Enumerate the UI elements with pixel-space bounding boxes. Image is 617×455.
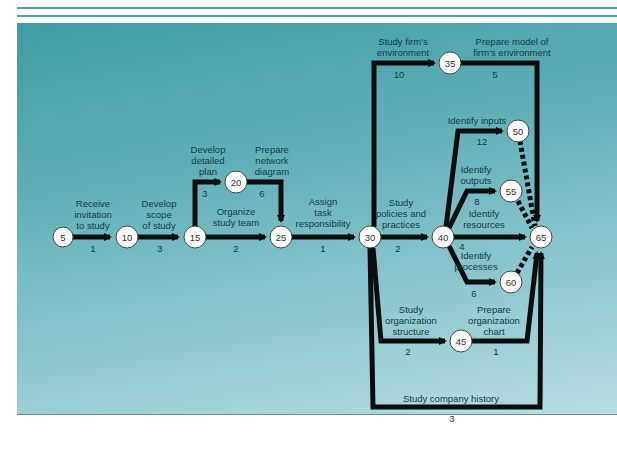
duration-30-40: 2 bbox=[395, 243, 400, 254]
svg-text:50: 50 bbox=[513, 126, 524, 137]
svg-text:10: 10 bbox=[122, 232, 133, 243]
node-25: 25 bbox=[270, 226, 292, 248]
duration-25-30: 1 bbox=[320, 243, 325, 254]
duration-30-65: 3 bbox=[449, 413, 454, 424]
pert-network-diagram: 5 10 15 20 25 30 35 40 45 50 55 60 65 Re… bbox=[0, 0, 617, 455]
node-65: 65 bbox=[530, 226, 552, 248]
node-20: 20 bbox=[225, 171, 247, 193]
dummy-edge-50-65 bbox=[520, 141, 535, 226]
node-30: 30 bbox=[359, 226, 381, 248]
svg-text:65: 65 bbox=[536, 232, 547, 243]
svg-text:60: 60 bbox=[506, 277, 517, 288]
duration-20-25: 6 bbox=[259, 188, 264, 199]
label-30-45: Studyorganizationstructure bbox=[385, 304, 437, 337]
duration-45-65: 1 bbox=[493, 346, 498, 357]
label-30-65: Study company history bbox=[403, 393, 499, 404]
node-60: 60 bbox=[500, 271, 522, 293]
duration-35-65: 5 bbox=[492, 69, 497, 80]
label-5-10: Receiveinvitationto study bbox=[74, 198, 112, 231]
label-40-60: Identifyprocesses bbox=[454, 250, 498, 272]
dummy-edge-60-65 bbox=[517, 247, 532, 273]
label-15-25: Organizestudy team bbox=[213, 206, 260, 228]
edge-35-65 bbox=[461, 63, 537, 221]
duration-10-15: 3 bbox=[157, 243, 162, 254]
label-15-20: Developdetailedplan bbox=[191, 144, 226, 177]
label-40-50: Identify inputs bbox=[448, 115, 507, 126]
node-55: 55 bbox=[500, 180, 522, 202]
label-30-40: Studypolicies andpractices bbox=[376, 197, 426, 230]
node-10: 10 bbox=[116, 226, 138, 248]
label-30-35: Study firm'senvironment bbox=[377, 36, 430, 58]
label-20-25: Preparenetworkdiagram bbox=[255, 144, 289, 177]
duration-15-25: 2 bbox=[233, 243, 238, 254]
node-5: 5 bbox=[53, 227, 73, 247]
node-35: 35 bbox=[439, 52, 461, 74]
label-10-15: Developscopeof study bbox=[142, 198, 177, 231]
svg-text:40: 40 bbox=[438, 232, 449, 243]
duration-30-35: 10 bbox=[394, 69, 405, 80]
node-40: 40 bbox=[432, 226, 454, 248]
label-25-30: Assigntaskresponsibility bbox=[296, 196, 351, 229]
svg-text:15: 15 bbox=[190, 232, 201, 243]
label-40-65: Identifyresources bbox=[463, 208, 505, 230]
svg-text:5: 5 bbox=[60, 232, 65, 243]
node-15: 15 bbox=[184, 226, 206, 248]
svg-text:45: 45 bbox=[456, 336, 467, 347]
duration-40-55: 8 bbox=[474, 196, 479, 207]
duration-15-20: 3 bbox=[202, 188, 207, 199]
duration-30-45: 2 bbox=[405, 346, 410, 357]
svg-text:30: 30 bbox=[365, 232, 376, 243]
duration-40-65: 4 bbox=[459, 241, 464, 252]
svg-text:20: 20 bbox=[231, 177, 242, 188]
node-45: 45 bbox=[450, 330, 472, 352]
svg-text:55: 55 bbox=[506, 186, 517, 197]
label-35-65: Prepare model offirm's environment bbox=[473, 36, 551, 58]
duration-40-50: 12 bbox=[477, 136, 488, 147]
duration-40-60: 6 bbox=[471, 288, 476, 299]
node-50: 50 bbox=[507, 120, 529, 142]
svg-text:25: 25 bbox=[276, 232, 287, 243]
label-40-55: Identifyoutputs bbox=[460, 164, 491, 186]
svg-text:35: 35 bbox=[445, 58, 456, 69]
duration-5-10: 1 bbox=[90, 243, 95, 254]
label-45-65: Prepareorganizationchart bbox=[468, 304, 520, 337]
